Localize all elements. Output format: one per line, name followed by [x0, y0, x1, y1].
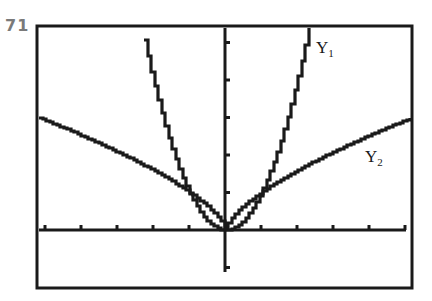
axes [39, 28, 406, 272]
y1-label: Y1 [316, 38, 334, 59]
y2-label: Y2 [365, 147, 383, 168]
calculator-graph: Y1 Y2 [0, 0, 432, 301]
